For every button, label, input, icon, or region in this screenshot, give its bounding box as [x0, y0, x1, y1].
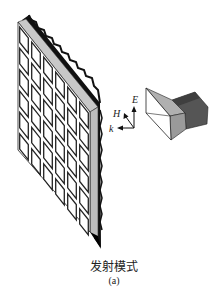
e-label: E [131, 94, 138, 105]
panel-side-face [90, 107, 98, 240]
k-arrow-head [117, 126, 123, 131]
figure-caption: 发射模式 [3, 257, 222, 274]
horn-antenna [146, 88, 208, 140]
transmitarray-diagram: E H k [0, 0, 222, 297]
h-label: H [112, 108, 121, 119]
figure-label: (a) [3, 275, 222, 286]
array-panel [18, 15, 102, 249]
h-arrow-head [124, 113, 129, 119]
e-arrow-head [132, 106, 137, 112]
k-label: k [109, 123, 114, 134]
horn-flare-side [170, 113, 186, 140]
polarization-axes: E H k [109, 94, 138, 134]
